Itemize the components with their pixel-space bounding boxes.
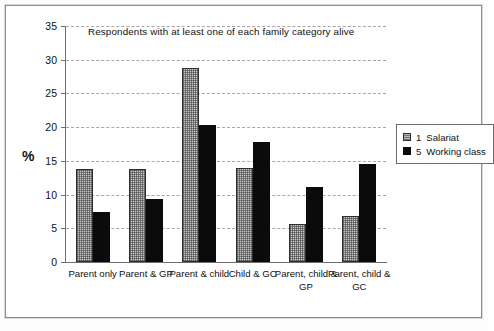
x-axis-categories: Parent onlyParent & GPParent & childChil… (66, 268, 386, 313)
bar (146, 199, 163, 262)
bar (93, 212, 110, 262)
legend-key: 1 (416, 132, 421, 143)
bar (306, 187, 323, 262)
y-axis-tick (61, 262, 66, 263)
bar-group (279, 26, 332, 262)
y-axis-tick-label: 5 (51, 222, 57, 234)
y-axis-tick-label: 20 (45, 121, 57, 133)
y-axis-tick-label: 15 (45, 155, 57, 167)
bar (289, 224, 306, 262)
bar (199, 125, 216, 262)
legend-label: Salariat (426, 132, 459, 143)
y-axis-tick-label: 0 (51, 256, 57, 268)
bar (76, 169, 93, 262)
bar (182, 68, 199, 262)
legend-key: 5 (416, 146, 421, 157)
bar-group (226, 26, 279, 262)
bar-group (333, 26, 386, 262)
y-axis-tick-label: 25 (45, 87, 57, 99)
x-axis-category-label: Parent, child & GC (327, 268, 392, 293)
x-axis-line (65, 262, 387, 263)
y-axis-label: % (22, 148, 34, 164)
bar-group (173, 26, 226, 262)
chart-legend: 1 Salariat 5 Working class (396, 124, 494, 164)
y-axis-tick-label: 35 (45, 20, 57, 32)
legend-swatch-salariat-icon (403, 133, 411, 141)
plot-area: 35302520151050 (66, 26, 386, 262)
bar (129, 169, 146, 262)
legend-swatch-working-class-icon (403, 147, 411, 155)
bar-group (119, 26, 172, 262)
bar-group (66, 26, 119, 262)
bar (359, 164, 376, 262)
legend-item: 5 Working class (403, 144, 486, 158)
y-axis-tick-label: 30 (45, 54, 57, 66)
bar (253, 142, 270, 262)
legend-label: Working class (426, 146, 486, 157)
y-axis-tick-label: 10 (45, 189, 57, 201)
legend-item: 1 Salariat (403, 130, 486, 144)
bar (342, 216, 359, 262)
bar (236, 168, 253, 262)
